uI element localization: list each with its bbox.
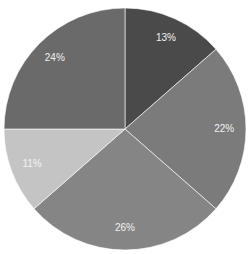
- slice-label: 26%: [115, 222, 135, 233]
- slice-label: 11%: [22, 158, 41, 169]
- pie-slices: [4, 8, 246, 250]
- slice-label: 13%: [156, 32, 176, 43]
- pie-slice: [4, 8, 125, 129]
- slice-label: 22%: [214, 123, 234, 134]
- pie-chart: 13%22%26%11%24%: [0, 0, 249, 254]
- slice-label: 24%: [45, 52, 65, 63]
